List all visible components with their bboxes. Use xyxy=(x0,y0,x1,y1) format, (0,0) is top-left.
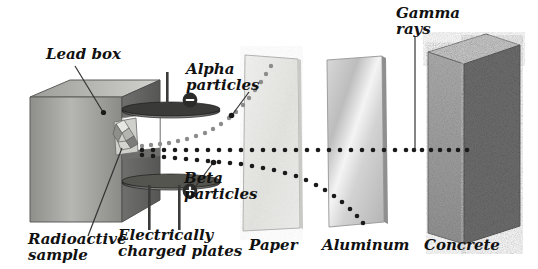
label-radioactive-sample: Radioactive sample xyxy=(28,232,126,264)
negative-charge-icon xyxy=(183,93,198,108)
label-aluminum: Aluminum xyxy=(322,238,410,254)
label-paper: Paper xyxy=(249,238,298,254)
label-beta-particles: Beta particles xyxy=(184,171,258,203)
label-concrete: Concrete xyxy=(424,238,500,254)
leader-dot-beta xyxy=(211,160,217,166)
diagram-canvas xyxy=(0,0,538,269)
gamma-beam xyxy=(140,148,470,153)
barrier-aluminum xyxy=(327,56,388,227)
label-charged-plates: Electrically charged plates xyxy=(118,228,242,260)
barrier-concrete xyxy=(428,34,520,244)
leader-dot-lead-box xyxy=(101,110,106,115)
leader-dot-alpha xyxy=(229,113,235,119)
radiation-penetration-diagram: Lead box Radioactive sample Electrically… xyxy=(0,0,538,269)
label-lead-box: Lead box xyxy=(46,47,121,63)
label-alpha-particles: Alpha particles xyxy=(186,62,260,94)
label-gamma-rays: Gamma rays xyxy=(396,6,460,38)
